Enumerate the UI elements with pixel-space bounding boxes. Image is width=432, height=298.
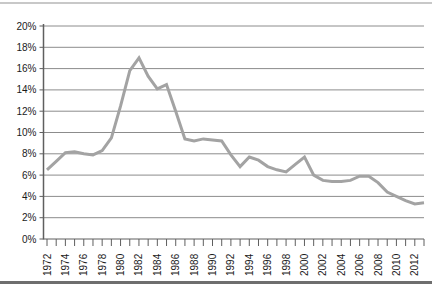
bottom-border-line <box>0 281 432 284</box>
x-axis-label: 2008 <box>373 253 384 276</box>
gridlines <box>44 26 425 218</box>
x-axis-label: 1998 <box>281 253 292 276</box>
x-axis-label: 1976 <box>78 253 89 276</box>
x-axis-label: 2010 <box>391 253 402 276</box>
y-axis <box>40 24 425 240</box>
x-axis-label: 1990 <box>207 253 218 276</box>
x-axis-label: 2000 <box>299 253 310 276</box>
x-axis-label: 1980 <box>115 253 126 276</box>
x-axis-labels: 1972197419761978198019821984198619881990… <box>42 253 421 276</box>
x-axis-label: 1994 <box>244 253 255 276</box>
x-axis-label: 1986 <box>170 253 181 276</box>
y-axis-label: 20% <box>16 21 36 32</box>
x-axis-label: 1988 <box>189 253 200 276</box>
x-axis-label: 1992 <box>225 253 236 276</box>
y-axis-label: 16% <box>16 63 36 74</box>
x-axis-label: 1996 <box>262 253 273 276</box>
x-axis-label: 1974 <box>60 253 71 276</box>
x-axis-label: 1972 <box>42 253 53 276</box>
y-axis-label: 6% <box>22 170 37 181</box>
x-axis-label: 1984 <box>152 253 163 276</box>
y-axis-label: 14% <box>16 84 36 95</box>
y-axis-labels: 0%2%4%6%8%10%12%14%16%18%20% <box>16 21 36 245</box>
data-series-line <box>47 58 424 204</box>
x-axis-label: 2006 <box>354 253 365 276</box>
x-axis-label: 1978 <box>97 253 108 276</box>
x-axis <box>47 239 424 246</box>
x-axis-label: 2012 <box>409 253 420 276</box>
x-axis-label: 2004 <box>336 253 347 276</box>
document-page: 0%2%4%6%8%10%12%14%16%18%20% 19721974197… <box>0 0 432 298</box>
y-axis-label: 2% <box>22 212 37 223</box>
y-axis-label: 12% <box>16 106 36 117</box>
y-axis-label: 0% <box>22 234 37 245</box>
y-axis-label: 18% <box>16 42 36 53</box>
x-axis-label: 2002 <box>317 253 328 276</box>
y-axis-label: 4% <box>22 191 37 202</box>
y-axis-label: 10% <box>16 127 36 138</box>
y-axis-label: 8% <box>22 148 37 159</box>
series-polyline <box>47 58 424 204</box>
x-axis-label: 1982 <box>133 253 144 276</box>
line-chart: 0%2%4%6%8%10%12%14%16%18%20% 19721974197… <box>0 0 432 298</box>
